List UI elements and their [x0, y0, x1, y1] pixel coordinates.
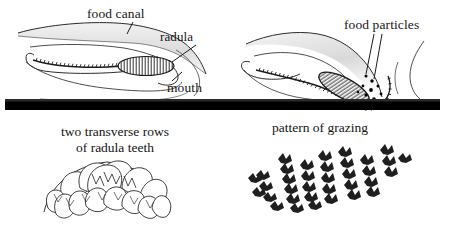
body-fold-right	[410, 41, 424, 99]
mouth-fold-right	[395, 62, 398, 94]
caption-teeth-line-2: of radula teeth	[30, 140, 200, 156]
substrate-highlight	[5, 99, 440, 102]
caption-radula-teeth: two transverse rows of radula teeth	[30, 124, 200, 156]
caption-grazing-pattern: pattern of grazing	[245, 120, 395, 136]
label-radula: radula	[160, 30, 193, 44]
label-mouth: mouth	[167, 81, 202, 95]
panel-teeth-detail	[44, 161, 171, 218]
leader-food-particles-b	[374, 34, 382, 79]
caption-graze-line-1: pattern of grazing	[245, 120, 395, 136]
label-food-particles: food particles	[344, 18, 419, 32]
radula-figure	[0, 0, 452, 226]
graze-marks	[248, 144, 412, 213]
panel-grazing-pattern	[248, 144, 412, 213]
label-food-canal: food canal	[87, 7, 145, 21]
caption-teeth-line-1: two transverse rows	[30, 124, 200, 140]
odontophore	[118, 57, 174, 76]
